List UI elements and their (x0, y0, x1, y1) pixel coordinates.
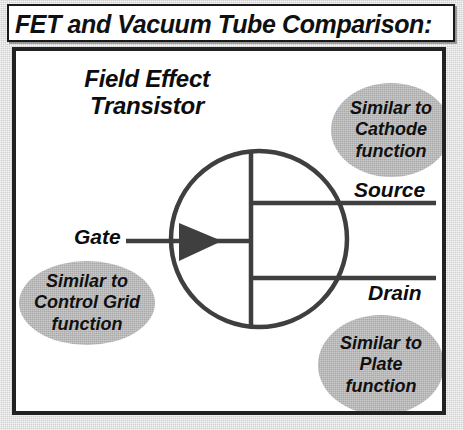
callout-cathode: Similar to Cathode function (331, 83, 446, 177)
callout-control-grid-text: Similar to Control Grid function (19, 271, 155, 335)
symbol-gate-arrowhead (179, 223, 222, 261)
terminal-label-drain: Drain (368, 281, 422, 305)
diagram-frame: Field Effect Transistor Gate Source Drai… (12, 47, 446, 415)
callout-control-grid: Similar to Control Grid function (19, 261, 155, 345)
terminal-label-gate: Gate (74, 225, 121, 249)
callout-plate: Similar to Plate function (318, 315, 444, 415)
page-title: FET and Vacuum Tube Comparison: (15, 7, 432, 41)
callout-plate-text: Similar to Plate function (318, 333, 444, 397)
device-label: Field Effect Transistor (62, 66, 232, 120)
terminal-label-source: Source (354, 178, 425, 202)
title-box: FET and Vacuum Tube Comparison: (7, 4, 455, 42)
callout-cathode-text: Similar to Cathode function (331, 98, 446, 162)
diagram-page: FET and Vacuum Tube Comparison: Field Ef… (0, 0, 463, 430)
